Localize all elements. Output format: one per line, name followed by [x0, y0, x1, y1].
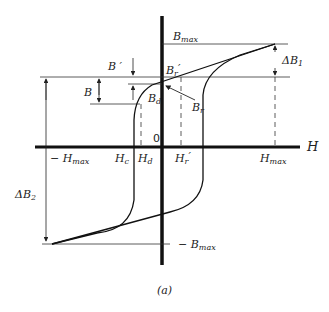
label-bd: Bd	[147, 92, 161, 106]
label-delta-b1: ΔB1	[281, 54, 303, 68]
label-delta-b2: ΔB2	[14, 188, 36, 202]
diagram-canvas: Bmax Br′ Br Bd ΔB1 ΔB2 B B ′ 0 H − Hmax …	[0, 0, 329, 312]
label-hc: Hc	[114, 152, 130, 166]
label-b-prime: B ′	[107, 60, 123, 73]
label-hmax: Hmax	[259, 152, 287, 166]
label-hr-prime: Hr′	[174, 150, 191, 166]
label-origin: 0	[153, 132, 160, 145]
br-pointer	[166, 86, 195, 100]
label-neg-bmax: − Bmax	[178, 238, 216, 252]
label-bmax: Bmax	[172, 30, 198, 44]
label-hd: Hd	[137, 152, 153, 166]
label-b: B	[83, 86, 92, 99]
caption: (a)	[157, 284, 172, 297]
label-h-axis: H	[306, 139, 319, 154]
hysteresis-diagram: Bmax Br′ Br Bd ΔB1 ΔB2 B B ′ 0 H − Hmax …	[0, 0, 329, 312]
label-neg-hmax: − Hmax	[50, 152, 90, 166]
